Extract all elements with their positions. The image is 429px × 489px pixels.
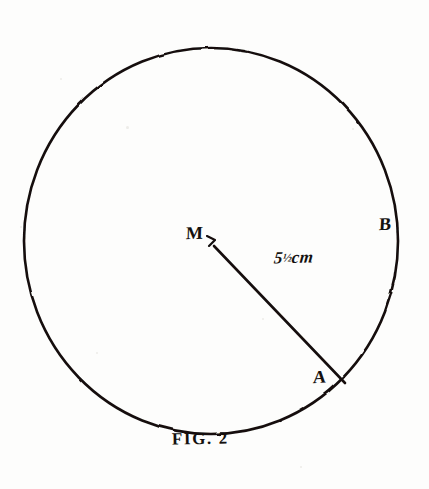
circle-outline xyxy=(24,48,398,434)
point-label-a: A xyxy=(313,368,327,387)
measure-unit: cm xyxy=(291,247,314,267)
figure-container: M B A 5½cm FIG. 2 xyxy=(0,0,429,489)
point-label-b: B xyxy=(379,215,392,234)
paper-speck xyxy=(96,352,98,354)
figure-caption: FIG. 2 xyxy=(172,430,229,448)
paper-speck xyxy=(352,128,354,130)
point-label-m: M xyxy=(186,224,204,243)
center-angle-mark xyxy=(207,236,215,246)
paper-speck xyxy=(300,466,302,468)
figure-drawing-canvas xyxy=(0,0,429,489)
paper-speck xyxy=(20,226,22,228)
radius-measurement-label: 5½cm xyxy=(273,248,314,266)
paper-speck xyxy=(60,78,62,80)
paper-speck xyxy=(262,318,264,320)
paper-speck xyxy=(126,126,129,129)
